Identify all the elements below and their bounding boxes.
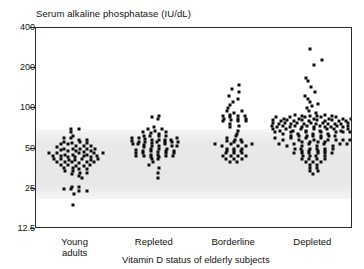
data-point xyxy=(301,157,304,160)
data-point xyxy=(274,137,277,140)
data-point xyxy=(335,131,338,134)
data-point xyxy=(63,169,66,172)
data-point xyxy=(286,145,289,148)
x-axis-caption: Vitamin D status of elderly subjects xyxy=(122,254,270,265)
data-point xyxy=(78,190,81,193)
data-point xyxy=(67,143,70,146)
data-point xyxy=(237,120,240,123)
data-point xyxy=(312,128,315,131)
data-point xyxy=(326,138,329,141)
data-point xyxy=(235,135,238,138)
data-point xyxy=(221,120,224,123)
data-point xyxy=(226,140,229,143)
data-point xyxy=(313,64,316,67)
data-point xyxy=(240,109,243,112)
data-point xyxy=(137,137,140,140)
data-point xyxy=(56,146,59,149)
data-point xyxy=(56,160,59,163)
x-axis-group-label-line: Depleted xyxy=(293,236,331,247)
data-point xyxy=(229,118,232,121)
data-point xyxy=(86,153,89,156)
data-point xyxy=(274,131,277,134)
data-point xyxy=(282,138,285,141)
data-point xyxy=(81,177,84,180)
data-point xyxy=(309,121,312,124)
data-point xyxy=(78,152,81,155)
data-point xyxy=(85,147,88,150)
data-point xyxy=(164,131,167,134)
data-point xyxy=(323,157,326,160)
data-point xyxy=(59,157,62,160)
data-point xyxy=(349,138,352,141)
data-point xyxy=(321,121,324,124)
data-point xyxy=(131,143,134,146)
y-axis-tick-label: 12.5 xyxy=(5,223,35,233)
data-point xyxy=(304,160,307,163)
data-point xyxy=(229,126,232,129)
data-point xyxy=(70,173,73,176)
data-point xyxy=(135,155,138,158)
data-point xyxy=(176,145,179,148)
data-point xyxy=(146,128,149,131)
data-point xyxy=(221,145,224,148)
data-point xyxy=(60,148,63,151)
data-point xyxy=(244,120,247,123)
data-point xyxy=(240,157,243,160)
data-point xyxy=(142,131,145,134)
data-point xyxy=(298,135,301,138)
data-point xyxy=(55,152,58,155)
data-point xyxy=(309,114,312,117)
data-point xyxy=(157,171,160,174)
data-point xyxy=(244,145,247,148)
data-point xyxy=(301,118,304,121)
data-point xyxy=(342,131,345,134)
data-point xyxy=(236,97,239,100)
data-point xyxy=(310,105,313,108)
data-point xyxy=(66,149,69,152)
data-point xyxy=(285,128,288,131)
y-axis-tick-label: 25 xyxy=(5,183,35,193)
data-point xyxy=(275,116,278,119)
data-point xyxy=(289,116,292,119)
data-point xyxy=(85,171,88,174)
data-point xyxy=(136,143,139,146)
data-point xyxy=(323,143,326,146)
x-axis-group-label: Youngadults xyxy=(61,236,88,258)
data-point xyxy=(164,143,167,146)
data-point xyxy=(323,113,326,116)
x-axis-group-label-line: adults xyxy=(61,247,88,258)
data-point xyxy=(156,157,159,160)
data-point xyxy=(237,83,240,86)
data-point xyxy=(149,149,152,152)
y-axis-tick-label: 400 xyxy=(5,22,35,32)
data-point xyxy=(79,141,82,144)
data-point xyxy=(82,151,85,154)
data-point xyxy=(236,160,239,163)
data-point xyxy=(236,145,239,148)
data-point xyxy=(48,152,51,155)
data-point xyxy=(346,143,349,146)
data-point xyxy=(151,160,154,163)
y-axis-tick-label: 200 xyxy=(5,62,35,72)
data-point xyxy=(226,109,229,112)
data-point xyxy=(62,141,65,144)
data-point xyxy=(230,87,233,90)
data-point xyxy=(63,137,66,140)
y-axis: 400200100502512.5 xyxy=(0,0,35,269)
data-point xyxy=(290,137,293,140)
data-point xyxy=(341,138,344,141)
data-point xyxy=(334,135,337,138)
data-point xyxy=(214,143,217,146)
data-point xyxy=(318,124,321,127)
data-point xyxy=(237,124,240,127)
y-axis-tick-label: 50 xyxy=(5,143,35,153)
data-point xyxy=(73,192,76,195)
data-point xyxy=(89,163,92,166)
data-point xyxy=(281,133,284,136)
data-point xyxy=(70,142,73,145)
data-point xyxy=(233,112,236,115)
data-point xyxy=(294,147,297,150)
data-point xyxy=(306,124,309,127)
data-point xyxy=(60,143,63,146)
data-point xyxy=(307,143,310,146)
